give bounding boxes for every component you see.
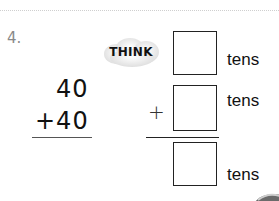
worksheet-page: 4. 40 +40 THINK tens + tens tens bbox=[0, 0, 279, 201]
addend-1: 40 bbox=[56, 77, 89, 101]
tens-label-sum: tens bbox=[227, 165, 259, 185]
addend-2: +40 bbox=[35, 109, 89, 133]
think-cloud: THINK bbox=[102, 36, 160, 68]
top-divider bbox=[0, 10, 279, 12]
tens-label-2: tens bbox=[227, 91, 259, 111]
plus-sign: + bbox=[148, 100, 165, 124]
problem-number: 4. bbox=[7, 29, 21, 47]
think-label: THINK bbox=[102, 45, 160, 59]
corner-graphic-icon bbox=[252, 188, 279, 201]
tens-answer-box-1[interactable] bbox=[173, 31, 217, 75]
sum-line bbox=[32, 137, 92, 138]
tens-answer-box-2[interactable] bbox=[173, 85, 217, 131]
answer-line bbox=[146, 137, 219, 138]
tens-answer-box-sum[interactable] bbox=[173, 142, 217, 186]
tens-label-1: tens bbox=[227, 50, 259, 70]
